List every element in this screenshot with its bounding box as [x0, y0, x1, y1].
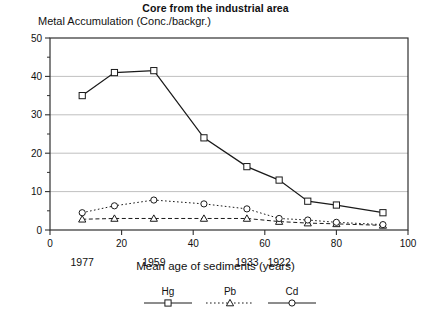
series-marker-Hg-2: [151, 68, 157, 74]
chart-figure: Core from the industrial area Metal Accu…: [0, 0, 431, 316]
plot-frame: [50, 38, 408, 230]
series-marker-Cd-3: [201, 201, 207, 207]
series-marker-Cd-7: [333, 219, 339, 225]
plot-canvas: 010203040500204060801001977195919331922H…: [0, 0, 431, 316]
year-label-1959: 1959: [142, 256, 166, 268]
y-tick-label-10: 10: [31, 186, 43, 197]
legend-marker-Hg: [165, 300, 171, 306]
series-marker-Hg-1: [111, 69, 117, 75]
series-marker-Cd-1: [111, 203, 117, 209]
series-marker-Hg-8: [380, 210, 386, 216]
year-label-1977: 1977: [71, 256, 95, 268]
x-tick-label-0: 0: [47, 238, 53, 249]
x-tick-label-100: 100: [400, 238, 417, 249]
x-tick-label-80: 80: [331, 238, 343, 249]
x-tick-label-60: 60: [259, 238, 271, 249]
x-tick-label-40: 40: [188, 238, 200, 249]
series-marker-Cd-2: [151, 197, 157, 203]
y-tick-label-30: 30: [31, 109, 43, 120]
legend-label-Pb: Pb: [224, 286, 237, 297]
series-marker-Hg-4: [244, 164, 250, 170]
series-marker-Cd-5: [276, 215, 282, 221]
series-marker-Cd-6: [305, 217, 311, 223]
x-tick-label-20: 20: [116, 238, 128, 249]
y-tick-label-20: 20: [31, 148, 43, 159]
y-tick-label-40: 40: [31, 71, 43, 82]
series-marker-Hg-5: [276, 177, 282, 183]
series-marker-Cd-8: [380, 222, 386, 228]
series-marker-Hg-6: [305, 198, 311, 204]
series-marker-Hg-7: [333, 202, 339, 208]
legend-label-Hg: Hg: [162, 286, 175, 297]
series-marker-Cd-4: [244, 206, 250, 212]
legend-label-Cd: Cd: [286, 286, 299, 297]
y-tick-label-0: 0: [36, 225, 42, 236]
series-marker-Hg-0: [79, 93, 85, 99]
y-tick-label-50: 50: [31, 33, 43, 44]
series-marker-Cd-0: [79, 210, 85, 216]
series-marker-Hg-3: [201, 135, 207, 141]
year-label-1922: 1922: [267, 256, 291, 268]
year-label-1933: 1933: [235, 256, 259, 268]
legend-marker-Cd: [289, 300, 295, 306]
